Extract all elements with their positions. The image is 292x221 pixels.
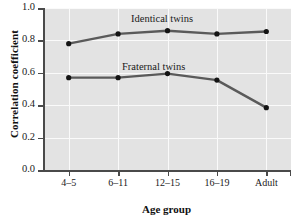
gridline-vertical (168, 8, 169, 170)
x-axis-tick (118, 171, 120, 176)
x-axis-tick-label: Adult (238, 177, 291, 188)
y-axis-tick (38, 170, 43, 172)
gridline-vertical (266, 8, 267, 170)
x-axis-tick (69, 171, 71, 176)
series-label-fraternal-twins: Fraternal twins (122, 61, 185, 72)
y-axis-tick-label: 0.2 (2, 131, 35, 142)
series-label-identical-twins: Identical twins (131, 13, 193, 24)
y-axis-line (43, 8, 45, 171)
y-axis-tick-label: 1.0 (2, 1, 35, 12)
y-axis-tick (38, 138, 43, 140)
y-axis-tick-label: 0.4 (2, 98, 35, 109)
y-axis-tick (38, 73, 43, 75)
x-axis-tick (266, 171, 268, 176)
x-axis-title: Age group (42, 203, 291, 215)
x-axis-tick (217, 171, 219, 176)
y-axis-tick-label: 0.8 (2, 33, 35, 44)
x-axis-end-tick (290, 171, 292, 176)
gridline-vertical (118, 8, 119, 170)
y-axis-tick-label: 0.0 (2, 163, 35, 174)
gridline-vertical (69, 8, 70, 170)
y-axis-tick (38, 8, 43, 10)
y-axis-tick (38, 40, 43, 42)
gridline-vertical (217, 8, 218, 170)
y-axis-tick-label: 0.6 (2, 66, 35, 77)
x-axis-tick-label: 12–15 (140, 177, 196, 188)
x-axis-tick-label: 6–11 (90, 177, 146, 188)
x-axis-tick-label: 16–19 (189, 177, 245, 188)
x-axis-tick (168, 171, 170, 176)
plot-area (44, 8, 291, 170)
twin-correlation-line-chart: Correlation coefficient Identical twins … (0, 0, 291, 221)
y-axis-tick (38, 105, 43, 107)
x-axis-tick-label: 4–5 (41, 177, 97, 188)
